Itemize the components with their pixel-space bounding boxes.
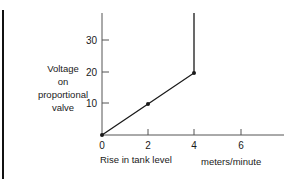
chart-plot: 10 20 30 0 2 4 6 <box>0 0 295 179</box>
x-tick-label: 6 <box>238 140 244 151</box>
y-tick-label: 30 <box>86 35 98 46</box>
y-tick-label: 10 <box>86 98 98 109</box>
x-axis-label: Rise in tank level <box>100 154 172 165</box>
data-point <box>100 133 104 137</box>
x-tick-label: 0 <box>99 140 105 151</box>
data-line <box>102 13 194 135</box>
y-tick-label: 20 <box>86 67 98 78</box>
x-axis-unit: meters/minute <box>201 156 261 167</box>
x-tick-label: 4 <box>191 140 197 151</box>
x-tick-label: 2 <box>145 140 151 151</box>
data-point <box>192 71 196 75</box>
data-point <box>146 102 150 106</box>
